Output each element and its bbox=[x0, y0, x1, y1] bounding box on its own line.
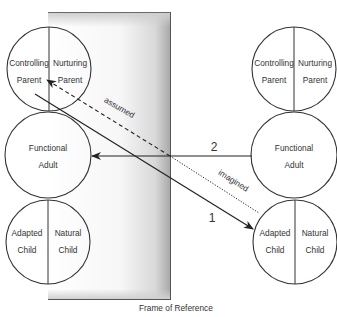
svg-text:Functional: Functional bbox=[29, 143, 67, 153]
transactional-analysis-diagram: Controlling Parent Nurturing Parent Func… bbox=[0, 0, 337, 317]
svg-text:Natural: Natural bbox=[55, 228, 82, 238]
svg-text:Adapted: Adapted bbox=[260, 228, 291, 238]
frame-of-reference-label: Frame of Reference bbox=[139, 303, 213, 313]
svg-text:Controlling: Controlling bbox=[254, 58, 294, 68]
left-nurturing-label: Nurturing bbox=[53, 58, 88, 68]
svg-text:Parent: Parent bbox=[58, 75, 83, 85]
left-controlling-label: Controlling bbox=[9, 58, 49, 68]
svg-text:Child: Child bbox=[306, 245, 325, 255]
left-adult-circle: Functional Adult bbox=[5, 112, 91, 198]
svg-text:Adult: Adult bbox=[285, 160, 305, 170]
svg-text:Parent: Parent bbox=[17, 75, 42, 85]
transaction-2-label: 2 bbox=[211, 140, 218, 154]
svg-text:Parent: Parent bbox=[262, 75, 287, 85]
svg-text:Functional: Functional bbox=[275, 143, 313, 153]
svg-text:Child: Child bbox=[59, 245, 78, 255]
svg-text:Parent: Parent bbox=[303, 75, 328, 85]
assumed-label: assumed bbox=[102, 95, 136, 121]
svg-text:Child: Child bbox=[18, 245, 37, 255]
svg-text:Natural: Natural bbox=[302, 228, 329, 238]
svg-text:Nurturing: Nurturing bbox=[298, 58, 333, 68]
right-child-circle: Adapted Child Natural Child bbox=[253, 200, 337, 284]
left-parent-circle: Controlling Parent Nurturing Parent bbox=[7, 27, 91, 111]
svg-text:Adult: Adult bbox=[39, 160, 59, 170]
left-child-circle: Adapted Child Natural Child bbox=[6, 200, 90, 284]
svg-text:Adapted: Adapted bbox=[12, 228, 43, 238]
imagined-label: imagined bbox=[217, 167, 251, 194]
right-parent-circle: Controlling Parent Nurturing Parent bbox=[252, 27, 336, 111]
right-adult-circle: Functional Adult bbox=[251, 112, 337, 198]
svg-text:Child: Child bbox=[266, 245, 285, 255]
transaction-1-label: 1 bbox=[209, 211, 216, 225]
transaction-1-arrow bbox=[35, 94, 253, 229]
